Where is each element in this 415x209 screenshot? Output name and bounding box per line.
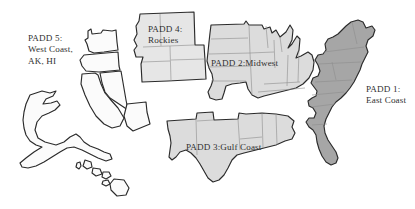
state-wa — [85, 29, 118, 53]
state-or — [80, 52, 120, 72]
island-hi-2 — [83, 160, 92, 169]
island-hi-6 — [110, 179, 129, 196]
padd4-label-line2: Rockies — [148, 35, 182, 46]
state-az — [124, 102, 150, 131]
region-padd1 — [306, 20, 375, 165]
padd5-label-line3: AK, HI — [28, 56, 73, 67]
island-hi-4 — [102, 172, 111, 179]
island-hi-5 — [102, 180, 110, 186]
map-graphic — [0, 0, 415, 209]
region-label-padd1: PADD 1: East Coast — [366, 84, 406, 107]
region-label-padd2: PADD 2:Midwest — [211, 58, 278, 69]
padd4-label-line1: PADD 4: — [148, 24, 182, 35]
padd-regions-map: PADD 5: West Coast, AK, HI PADD 4: Rocki… — [0, 0, 415, 209]
island-hi-1 — [76, 162, 81, 169]
padd2-label-line1: PADD 2:Midwest — [211, 58, 278, 69]
region-label-padd3: PADD 3:Gulf Coast — [186, 142, 261, 153]
region-label-padd4: PADD 4: Rockies — [148, 24, 182, 47]
region-padd4 — [134, 12, 206, 82]
region-label-padd5: PADD 5: West Coast, AK, HI — [28, 33, 73, 67]
island-hi-3 — [92, 168, 102, 176]
padd3-label-line1: PADD 3:Gulf Coast — [186, 142, 261, 153]
padd1-label-line1: PADD 1: — [366, 84, 406, 95]
padd5-label-line1: PADD 5: — [28, 33, 73, 44]
padd1-label-line2: East Coast — [366, 95, 406, 106]
padd5-label-line2: West Coast, — [28, 44, 73, 55]
